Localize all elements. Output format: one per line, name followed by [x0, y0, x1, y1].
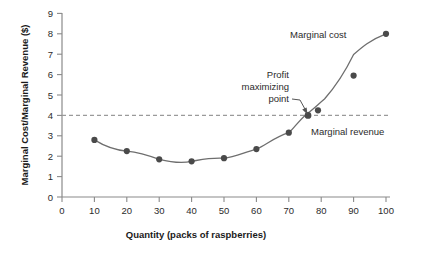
x-tick-label-10: 10: [89, 205, 100, 216]
profit-max-label-line-1: Profit: [267, 69, 290, 80]
profit-max-label-line-2: maximizing: [241, 81, 289, 92]
x-tick-label-100: 100: [378, 205, 394, 216]
data-point: [315, 107, 321, 113]
x-tick-label-90: 90: [348, 205, 359, 216]
y-tick-label-2: 2: [48, 151, 53, 162]
marginal-cost-label: Marginal cost: [290, 29, 347, 40]
y-tick-label-9: 9: [48, 8, 53, 19]
y-tick-label-7: 7: [48, 49, 53, 60]
y-tick-label-1: 1: [48, 171, 53, 182]
marginal-cost-curve: [94, 34, 386, 163]
y-tick-label-0: 0: [48, 192, 53, 203]
marginal-cost-data-points: [91, 31, 389, 165]
x-tick-label-50: 50: [219, 205, 230, 216]
data-point: [91, 137, 97, 143]
y-tick-label-8: 8: [48, 28, 53, 39]
data-point: [124, 148, 130, 154]
x-tick-label-30: 30: [154, 205, 165, 216]
x-tick-label-20: 20: [122, 205, 133, 216]
y-tick-label-4: 4: [48, 110, 53, 121]
data-point: [253, 146, 259, 152]
data-point: [221, 155, 227, 161]
data-point: [189, 158, 195, 164]
data-point-profit-max: [305, 112, 312, 119]
y-tick-label-6: 6: [48, 69, 53, 80]
x-axis-title: Quantity (packs of raspberries): [126, 229, 266, 240]
x-tick-label-80: 80: [316, 205, 327, 216]
x-tick-label-0: 0: [59, 205, 64, 216]
data-point: [383, 31, 389, 37]
data-point: [351, 73, 357, 79]
x-tick-label-60: 60: [251, 205, 262, 216]
y-axis-title: Marginal Cost/Marginal Revenue ($): [19, 24, 30, 185]
x-tick-label-70: 70: [284, 205, 295, 216]
y-axis-ticks: [57, 13, 62, 197]
x-tick-label-40: 40: [186, 205, 197, 216]
data-point: [156, 156, 162, 162]
y-tick-label-5: 5: [48, 90, 53, 101]
x-axis-ticks: [62, 197, 386, 202]
y-tick-label-3: 3: [48, 130, 53, 141]
data-point: [286, 130, 292, 136]
profit-max-arrow-icon: [302, 108, 307, 115]
profit-max-label-line-3: point: [268, 93, 289, 104]
chart-plot-area: 0 1 2 3 4 5 6 7 8 9 0 10 20 30 40 50: [0, 0, 423, 254]
marginal-revenue-label: Marginal revenue: [311, 126, 384, 137]
profit-max-leader-line: [292, 99, 306, 110]
chart-figure: 0 1 2 3 4 5 6 7 8 9 0 10 20 30 40 50: [0, 0, 423, 254]
